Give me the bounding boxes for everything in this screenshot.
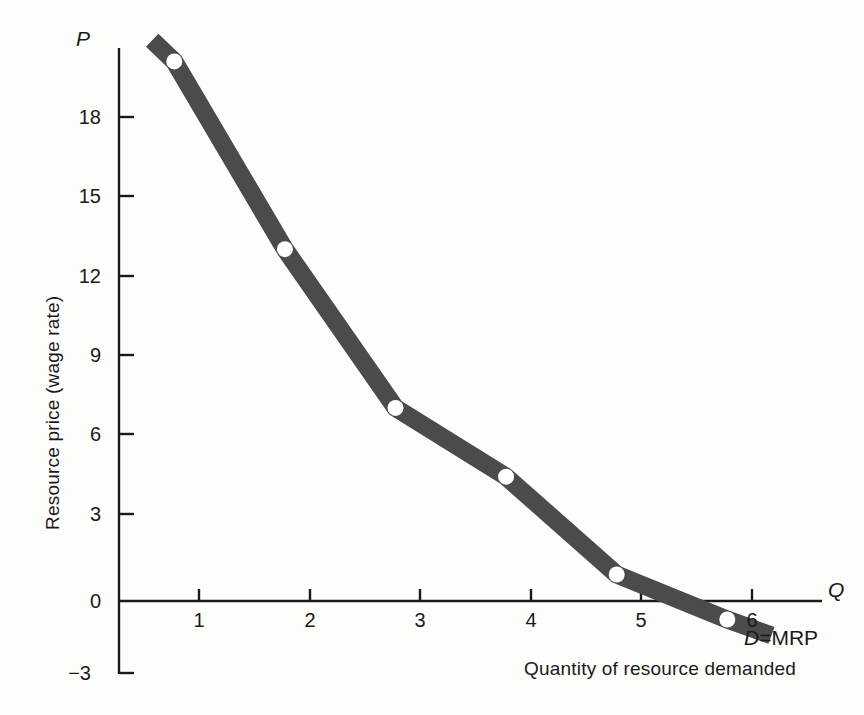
x-tick-label: 5: [626, 609, 656, 632]
y-tick-label: 3: [55, 503, 101, 526]
data-point-marker: [609, 567, 625, 583]
y-tick-label: 12: [55, 265, 101, 288]
data-point-marker: [388, 400, 404, 416]
y-axis-ticks: [119, 117, 134, 673]
data-point-marker: [277, 241, 293, 257]
demand-curve-label-symbol: D: [744, 626, 759, 649]
y-tick-label: 9: [55, 344, 101, 367]
data-point-markers: [166, 53, 735, 627]
chart-figure: Resource price (wage rate) P Q 18 15 12 …: [0, 0, 864, 715]
data-point-marker: [498, 469, 514, 485]
y-tick-label: −3: [45, 662, 91, 685]
demand-curve-label-operator: =: [759, 626, 771, 649]
y-axis-symbol: P: [76, 27, 90, 51]
x-tick-label: 4: [516, 609, 546, 632]
demand-curve-label-text: MRP: [771, 626, 818, 649]
demand-curve-label: D=MRP: [744, 626, 818, 650]
y-tick-label: 0: [55, 590, 101, 613]
x-axis-symbol: Q: [828, 578, 844, 602]
demand-curve-line: [152, 40, 771, 635]
y-tick-label: 18: [55, 106, 101, 129]
x-tick-label: 2: [295, 609, 325, 632]
data-point-marker: [166, 53, 182, 69]
y-tick-label: 6: [55, 423, 101, 446]
y-axis-title: Resource price (wage rate): [42, 296, 64, 530]
data-point-marker: [719, 612, 735, 628]
x-axis-title: Quantity of resource demanded: [524, 658, 796, 680]
y-tick-label: 15: [55, 185, 101, 208]
x-tick-label: 1: [184, 609, 214, 632]
chart-plot-area: [0, 0, 864, 715]
x-tick-label: 3: [405, 609, 435, 632]
